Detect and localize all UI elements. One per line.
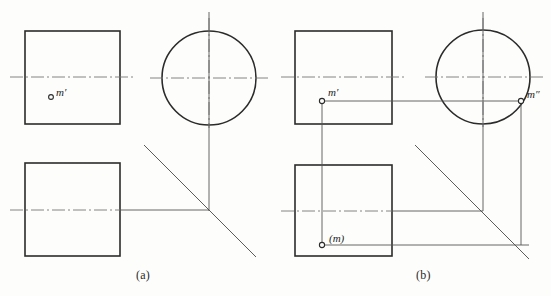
panel-b-group (281, 12, 543, 259)
panel-b-label-m-prime: m′ (328, 86, 338, 98)
panel-a-miter-line (144, 145, 256, 257)
panel-b-point-m-double-prime-marker (518, 98, 523, 103)
panel-a-group (10, 12, 268, 257)
panel-a-front-view-square (25, 31, 120, 124)
panel-a-top-view-square (25, 163, 120, 256)
caption-b: (b) (416, 268, 431, 283)
panel-b-point-m-marker (319, 242, 324, 247)
panel-a-point-m-prime-marker (49, 95, 54, 100)
panel-b-label-m-double-prime: m″ (527, 88, 540, 100)
panel-b-point-m-prime-marker (319, 98, 324, 103)
panel-b-front-view-square (295, 31, 392, 124)
panel-a-label-m-prime: m′ (56, 86, 66, 98)
panel-b-miter-line (415, 145, 529, 259)
drawing-canvas: .outline { fill: none; stroke: #2b2b2b; … (0, 0, 551, 296)
panel-b-label-m-parenthesized: (m) (329, 232, 344, 244)
caption-a: (a) (136, 268, 150, 283)
technical-drawing-figure: .outline { fill: none; stroke: #2b2b2b; … (0, 0, 551, 296)
